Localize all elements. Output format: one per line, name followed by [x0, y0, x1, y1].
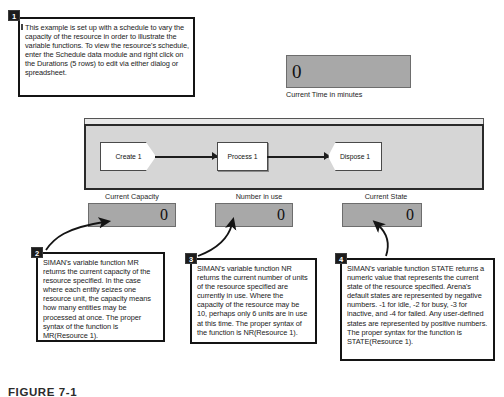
flow-node-create-label: Create 1: [115, 153, 141, 160]
current-state-label: Current State: [342, 192, 430, 201]
figure-caption: FIGURE 7-1: [8, 386, 77, 397]
callout-2-box: SIMAN's variable function MR returns the…: [36, 252, 165, 342]
current-capacity-display: Current Capacity 0: [88, 192, 176, 227]
number-in-use-value: 0: [215, 203, 293, 227]
flow-node-process-label: Process 1: [227, 153, 257, 160]
flow-node-create[interactable]: Create 1: [100, 142, 156, 171]
callout-2-badge: 2: [31, 247, 43, 258]
callout-1-badge: 1: [8, 10, 20, 21]
number-in-use-label: Number in use: [215, 192, 303, 201]
current-state-display: Current State 0: [342, 192, 430, 227]
flow-node-dispose-label: Dispose 1: [340, 153, 370, 160]
number-in-use-display: Number in use 0: [215, 192, 303, 227]
flow-node-process[interactable]: Process 1: [217, 142, 268, 171]
current-time-value: 0: [286, 55, 411, 88]
current-state-value: 0: [342, 203, 422, 227]
callout-4-text: SIMAN's variable function STATE returns …: [342, 260, 493, 349]
current-capacity-value: 0: [88, 203, 176, 227]
flow-link-process-to-dispose: [267, 156, 329, 158]
connector-callout-3: [198, 224, 232, 256]
callout-3-badge: 3: [185, 253, 197, 264]
callout-3-box: SIMAN's variable function NR returns the…: [190, 258, 317, 344]
callout-3-text: SIMAN's variable function NR returns the…: [192, 260, 315, 340]
callout-1-text: This example is set up with a schedule t…: [20, 19, 193, 81]
callout-1-box: This example is set up with a schedule t…: [18, 17, 195, 97]
flow-link-create-to-process: [155, 156, 217, 158]
callout-4-box: SIMAN's variable function STATE returns …: [340, 258, 495, 361]
current-capacity-label: Current Capacity: [88, 192, 176, 201]
current-time-display: 0 Current Time in minutes: [286, 55, 411, 99]
callout-4-badge: 4: [335, 253, 347, 264]
callout-2-text: SIMAN's variable function MR returns the…: [38, 254, 163, 343]
flow-node-dispose[interactable]: Dispose 1: [328, 142, 382, 171]
connector-callout-4: [378, 225, 388, 256]
current-time-label: Current Time in minutes: [286, 90, 411, 99]
